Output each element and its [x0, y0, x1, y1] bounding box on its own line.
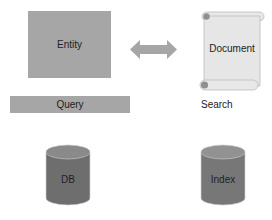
query-bar: Query — [10, 96, 130, 113]
query-label: Query — [56, 99, 83, 110]
entity-label: Entity — [57, 39, 82, 50]
db-label: DB — [45, 174, 91, 185]
document-label: Document — [202, 43, 262, 54]
search-label: Search — [201, 99, 233, 110]
entity-box: Entity — [28, 11, 111, 78]
index-label: Index — [200, 174, 246, 185]
bidirectional-arrow-icon — [130, 40, 177, 59]
